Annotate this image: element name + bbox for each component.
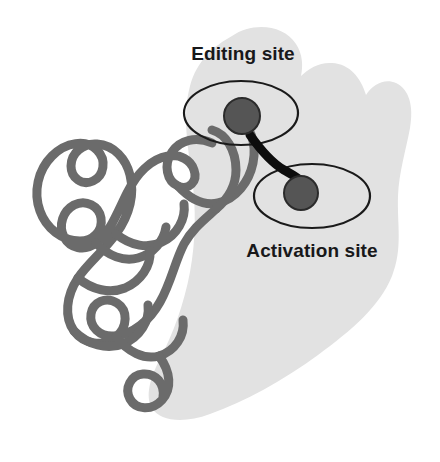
diagram-canvas: Editing site Activation site [0,0,440,462]
activation-site-label: Activation site [246,240,377,261]
enzyme-site-diagram: Editing site Activation site [0,0,440,462]
activation-site-marker [284,176,318,210]
editing-site-marker [224,98,260,134]
editing-site-label: Editing site [191,43,295,64]
